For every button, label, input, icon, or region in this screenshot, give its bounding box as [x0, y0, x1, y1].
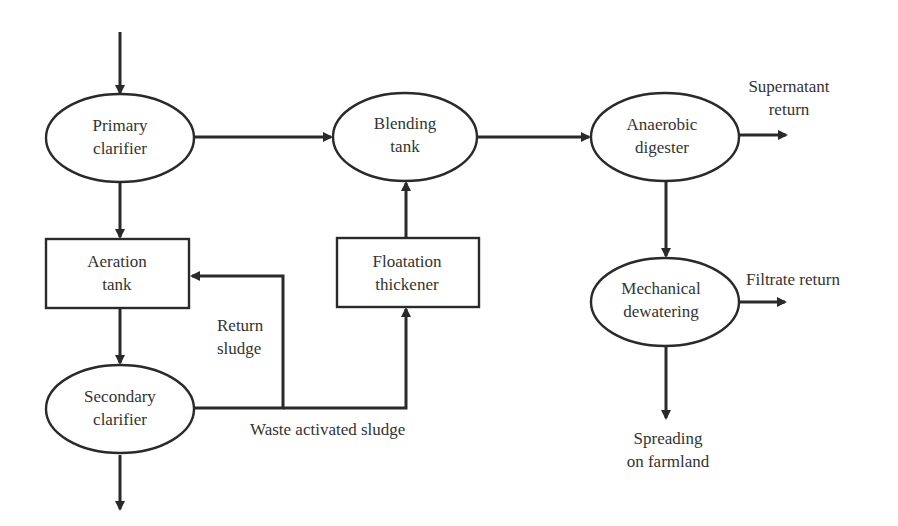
secondary-clarifier-label-line1: Secondary — [84, 385, 156, 408]
floatation-thickener-label: Floatation thickener — [373, 250, 442, 296]
supernatant-return-label: Supernatant return — [748, 75, 829, 121]
anaerobic-digester-label-line2: digester — [627, 136, 698, 159]
anaerobic-digester-label: Anaerobic digester — [627, 113, 698, 159]
primary-clarifier-label-line1: Primary — [93, 114, 148, 137]
anaerobic-digester-label-line1: Anaerobic — [627, 113, 698, 136]
secondary-clarifier-label: Secondary clarifier — [84, 385, 156, 431]
primary-clarifier-label: Primary clarifier — [93, 114, 148, 160]
return-sludge-label-line2: sludge — [217, 337, 263, 360]
filtrate-return-label: Filtrate return — [746, 268, 840, 291]
primary-clarifier-label-line2: clarifier — [93, 137, 148, 160]
aeration-tank-label-line1: Aeration — [87, 250, 146, 273]
blending-tank-label-line1: Blending — [374, 112, 436, 135]
spreading-on-farmland-label: Spreading on farmland — [627, 427, 710, 473]
waste-activated-sludge-label: Waste activated sludge — [250, 418, 405, 441]
floatation-thickener-label-line2: thickener — [373, 273, 442, 296]
mechanical-dewatering-label-line2: dewatering — [621, 300, 700, 323]
mechanical-dewatering-label-line1: Mechanical — [621, 277, 700, 300]
aeration-tank-label: Aeration tank — [87, 250, 146, 296]
floatation-thickener-label-line1: Floatation — [373, 250, 442, 273]
blending-tank-label: Blending tank — [374, 112, 436, 158]
aeration-tank-label-line2: tank — [87, 273, 146, 296]
return-sludge-label: Return sludge — [217, 314, 263, 360]
waste-activated-sludge-arrow — [283, 309, 406, 408]
mechanical-dewatering-label: Mechanical dewatering — [621, 277, 700, 323]
supernatant-return-label-line2: return — [748, 98, 829, 121]
supernatant-return-label-line1: Supernatant — [748, 75, 829, 98]
secondary-clarifier-label-line2: clarifier — [84, 408, 156, 431]
spreading-label-line1: Spreading — [627, 427, 710, 450]
spreading-label-line2: on farmland — [627, 450, 710, 473]
blending-tank-label-line2: tank — [374, 135, 436, 158]
return-sludge-label-line1: Return — [217, 314, 263, 337]
